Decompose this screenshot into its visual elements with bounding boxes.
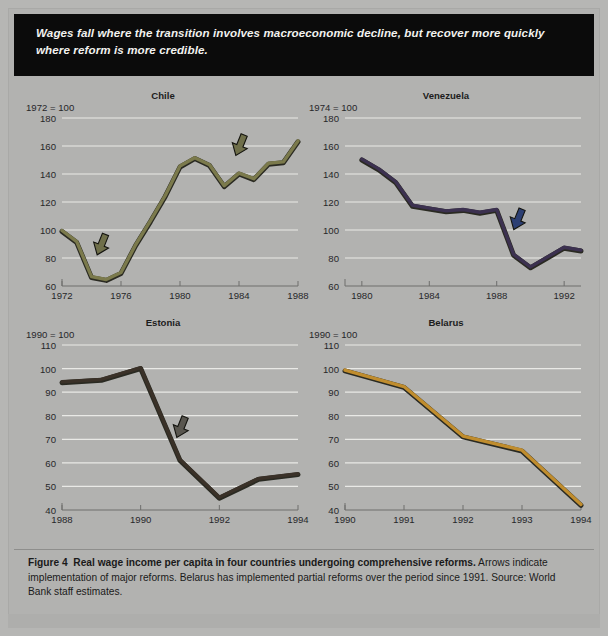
chart-panel-belarus: Belarus1990 = 10040506070809010011019901… (305, 317, 587, 539)
plot-area-venezuela (305, 90, 587, 315)
ytick-label-60: 60 (305, 457, 339, 468)
ytick-label-120: 120 (22, 197, 56, 208)
caption-figure-label: Figure 4 (28, 557, 68, 568)
xtick-label-1988: 1988 (51, 514, 72, 525)
ytick-label-110: 110 (305, 340, 339, 351)
series-shadow-belarus (345, 371, 581, 505)
chart-panel-chile: Chile1972 = 1006080100120140160180197219… (22, 90, 304, 315)
ytick-label-180: 180 (305, 113, 339, 124)
ytick-label-110: 110 (22, 340, 56, 351)
ytick-label-140: 140 (305, 169, 339, 180)
plot-area-chile (22, 90, 304, 315)
banner: Wages fall where the transition involves… (14, 14, 594, 76)
xtick-label-1992: 1992 (553, 290, 574, 301)
xtick-label-1988: 1988 (486, 290, 507, 301)
ytick-label-100: 100 (305, 225, 339, 236)
ytick-label-90: 90 (22, 387, 56, 398)
ytick-label-140: 140 (22, 169, 56, 180)
xtick-label-1992: 1992 (452, 514, 473, 525)
plot-area-estonia (22, 317, 304, 539)
chart-panel-venezuela: Venezuela1974 = 100608010012014016018019… (305, 90, 587, 315)
xtick-label-1992: 1992 (209, 514, 230, 525)
series-line-belarus (345, 370, 581, 504)
ytick-label-80: 80 (305, 410, 339, 421)
annotation-arrow-icon (228, 132, 251, 158)
ytick-label-100: 100 (22, 225, 56, 236)
ytick-label-60: 60 (22, 457, 56, 468)
xtick-label-1984: 1984 (228, 290, 249, 301)
ytick-label-160: 160 (305, 141, 339, 152)
figure-page: Wages fall where the transition involves… (0, 0, 608, 636)
ytick-label-90: 90 (305, 387, 339, 398)
caption-divider (14, 549, 594, 550)
ytick-label-100: 100 (305, 363, 339, 374)
plot-area-belarus (305, 317, 587, 539)
chart-panel-estonia: Estonia1990 = 10040506070809010011019881… (22, 317, 304, 539)
xtick-label-1994: 1994 (570, 514, 591, 525)
annotation-arrow-icon (90, 231, 113, 257)
ytick-label-80: 80 (305, 253, 339, 264)
banner-headline: Wages fall where the transition involves… (36, 25, 576, 58)
ytick-label-120: 120 (305, 197, 339, 208)
ytick-label-70: 70 (22, 434, 56, 445)
figure-caption: Figure 4 Real wage income per capita in … (28, 556, 576, 600)
series-shadow-chile (62, 142, 298, 281)
xtick-label-1991: 1991 (393, 514, 414, 525)
ytick-label-70: 70 (305, 434, 339, 445)
xtick-label-1972: 1972 (51, 290, 72, 301)
annotation-arrow-icon (169, 414, 192, 440)
xtick-label-1980: 1980 (169, 290, 190, 301)
xtick-label-1990: 1990 (130, 514, 151, 525)
ytick-label-80: 80 (22, 253, 56, 264)
ytick-label-80: 80 (22, 410, 56, 421)
bottom-strip (8, 614, 600, 628)
ytick-label-60: 60 (305, 281, 339, 292)
ytick-label-100: 100 (22, 363, 56, 374)
xtick-label-1976: 1976 (110, 290, 131, 301)
ytick-label-50: 50 (305, 481, 339, 492)
xtick-label-1993: 1993 (511, 514, 532, 525)
xtick-label-1980: 1980 (351, 290, 372, 301)
annotation-arrow-icon (506, 206, 529, 232)
caption-bold: Real wage income per capita in four coun… (73, 557, 476, 568)
series-line-chile (62, 141, 298, 280)
ytick-label-160: 160 (22, 141, 56, 152)
xtick-label-1990: 1990 (334, 514, 355, 525)
xtick-label-1984: 1984 (419, 290, 440, 301)
series-shadow-venezuela (362, 160, 581, 268)
ytick-label-50: 50 (22, 481, 56, 492)
ytick-label-180: 180 (22, 113, 56, 124)
